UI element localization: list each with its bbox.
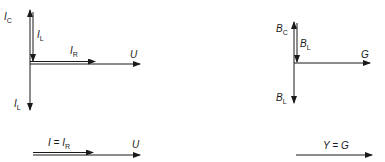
ir-label: IR — [70, 45, 78, 58]
ic-label: IC — [4, 11, 12, 24]
il-inner-label: IL — [37, 29, 44, 42]
current-resultant: I = IR U — [33, 137, 140, 155]
u-resultant-label: U — [132, 139, 140, 150]
current-phasor-diagram: IC IL IL IR U — [4, 10, 140, 111]
bc-label: BC — [276, 23, 288, 36]
il-label: IL — [14, 98, 21, 111]
bl-label: BL — [276, 92, 287, 105]
phasor-diagram-canvas: IC IL IL IR U I = IR U BC BL BL G Y = G — [0, 0, 385, 162]
bl-inner-label: BL — [300, 38, 311, 51]
u-label: U — [130, 49, 138, 60]
admittance-phasor-diagram: BC BL BL G — [276, 22, 370, 105]
g-label: G — [361, 49, 369, 60]
y-equals-g-label: Y = G — [323, 140, 349, 151]
i-equals-ir-label: I = IR — [48, 137, 70, 150]
admittance-resultant: Y = G — [296, 140, 372, 155]
